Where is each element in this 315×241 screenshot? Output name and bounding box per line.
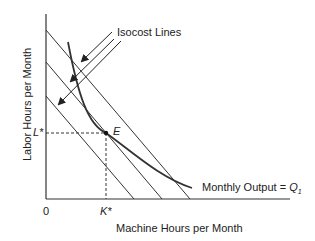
output-sub: 1 xyxy=(298,188,302,195)
isocost-line-low xyxy=(46,96,134,199)
output-prefix: Monthly Output = xyxy=(202,181,289,193)
arrow-2 xyxy=(71,39,114,81)
output-label: Monthly Output = Q1 xyxy=(202,181,302,195)
equilibrium-point xyxy=(104,131,108,135)
isoquant-curve xyxy=(68,42,192,188)
isocost-line-mid xyxy=(46,62,162,199)
k-star-label: K* xyxy=(100,205,112,217)
isocost-line-high xyxy=(46,30,190,199)
origin-label: 0 xyxy=(43,205,49,217)
y-axis-label: Labor Hours per Month xyxy=(21,51,33,161)
x-axis-label: Machine Hours per Month xyxy=(116,222,243,234)
isocost-label: Isocost Lines xyxy=(117,26,181,38)
equilibrium-label: E xyxy=(113,125,120,137)
arrow-3 xyxy=(59,41,121,104)
output-q: Q xyxy=(289,181,298,193)
l-star-label: L* xyxy=(33,126,43,138)
arrow-1 xyxy=(82,32,112,61)
